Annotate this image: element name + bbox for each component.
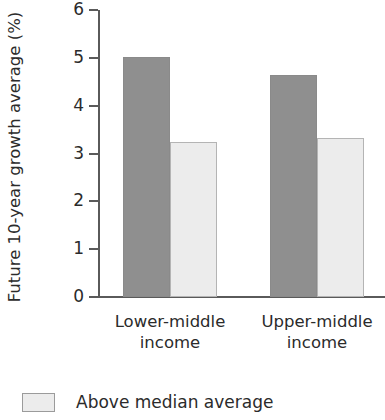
bar-chart-figure: Future 10-year growth average (%) 012345… — [0, 0, 385, 420]
legend-label-above-median-average: Above median average — [76, 392, 273, 412]
y-tick-label-5: 5 — [56, 47, 84, 67]
legend-swatch-above-median-average — [22, 393, 55, 412]
legend: Above median average — [22, 392, 273, 412]
x-category-label-line: income — [232, 332, 385, 353]
y-tick-label-1: 1 — [56, 238, 84, 258]
y-tick-3 — [89, 153, 98, 155]
bar-lower-middle-above-median — [170, 142, 217, 297]
x-category-label-upper-middle-income: Upper-middleincome — [232, 311, 385, 353]
y-axis-title: Future 10-year growth average (%) — [0, 14, 28, 300]
y-tick-label-4: 4 — [56, 95, 84, 115]
y-tick-label-2: 2 — [56, 190, 84, 210]
y-tick-label-0: 0 — [56, 286, 84, 306]
y-tick-6 — [89, 9, 98, 11]
y-tick-1 — [89, 248, 98, 250]
bars-layer — [98, 10, 385, 297]
bar-lower-middle-below-median — [123, 57, 170, 297]
y-tick-label-6: 6 — [56, 0, 84, 19]
y-tick-0 — [89, 296, 98, 298]
x-category-label-lower-middle-income: Lower-middleincome — [85, 311, 255, 353]
x-category-label-line: Upper-middle — [232, 311, 385, 332]
x-category-label-line: Lower-middle — [85, 311, 255, 332]
y-tick-2 — [89, 200, 98, 202]
x-category-label-line: income — [85, 332, 255, 353]
y-tick-label-3: 3 — [56, 143, 84, 163]
y-tick-4 — [89, 105, 98, 107]
y-tick-5 — [89, 57, 98, 59]
y-axis-title-text: Future 10-year growth average (%) — [5, 12, 24, 303]
bar-upper-middle-above-median — [317, 138, 364, 297]
bar-upper-middle-below-median — [270, 75, 317, 297]
